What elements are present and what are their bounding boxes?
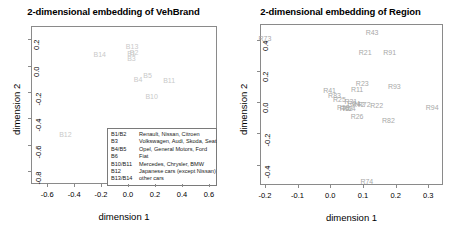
- legend-row: B1/B2Renault, Nissan, Citroen: [111, 131, 213, 138]
- x-tick-mark: [47, 184, 48, 187]
- legend-description: Fiat: [139, 153, 213, 160]
- x-tick-mark: [182, 184, 183, 187]
- legend-key: B13/B14: [111, 175, 139, 182]
- y-tick-label: 0.2: [261, 71, 270, 81]
- y-tick-label: -0.6: [34, 145, 43, 158]
- data-point-label: B14: [94, 51, 106, 58]
- y-tick-label: -0.2: [34, 92, 43, 105]
- data-point-label: B11: [163, 76, 175, 83]
- y-tick-mark: [28, 118, 31, 119]
- data-point-label: R21: [359, 49, 372, 56]
- legend-key: B1/B2: [111, 131, 139, 138]
- legend-row: B10/B11Mercedes, Chrysler, BMW: [111, 161, 213, 168]
- y-tick-mark: [257, 40, 260, 41]
- data-point-label: B5: [143, 71, 152, 78]
- x-tick-label: -0.6: [41, 190, 54, 199]
- y-tick-label: 0.4: [261, 40, 270, 50]
- x-tick-label: -0.2: [258, 191, 271, 200]
- y-tick-mark: [28, 145, 31, 146]
- x-tick-mark: [209, 184, 210, 187]
- x-tick-label: 0.0: [325, 191, 335, 200]
- x-tick-label: -0.1: [291, 191, 304, 200]
- x-tick-mark: [128, 184, 129, 187]
- legend-row: B13/B14other cars: [111, 175, 213, 182]
- legend-description: Opel, General Motors, Ford: [139, 146, 213, 153]
- legend-row: B12Japanese cars (except Nissan): [111, 168, 213, 175]
- data-point-label: B12: [59, 130, 71, 137]
- x-tick-mark: [298, 185, 299, 188]
- x-tick-label: -0.4: [68, 190, 81, 199]
- legend-description: other cars: [139, 175, 213, 182]
- y-tick-mark: [257, 133, 260, 134]
- data-point-label: R22: [370, 101, 383, 108]
- data-point-label: R72: [358, 101, 371, 108]
- data-point-label: R93: [388, 82, 401, 89]
- y-tick-mark: [28, 39, 31, 40]
- x-tick-label: 0.6: [204, 190, 214, 199]
- legend-key: B4/B5: [111, 146, 139, 153]
- x-tick-mark: [101, 184, 102, 187]
- x-tick-label: 0.2: [150, 190, 160, 199]
- y-tick-label: 0.0: [32, 66, 41, 76]
- data-point-label: R74: [360, 177, 373, 184]
- y-tick-mark: [257, 165, 260, 166]
- legend-description: Renault, Nissan, Citroen: [139, 131, 213, 138]
- legend-key: B6: [111, 153, 139, 160]
- x-tick-label: 0.0: [123, 190, 133, 199]
- x-tick-mark: [330, 185, 331, 188]
- data-point-label: R94: [426, 104, 439, 111]
- y-tick-label: -0.8: [34, 171, 43, 184]
- data-point-label: R91: [383, 49, 396, 56]
- legend-row: B4/B5Opel, General Motors, Ford: [111, 146, 213, 153]
- legend-row: B3Volkswagen, Audi, Skoda, Seat: [111, 138, 213, 145]
- legend-description: Japanese cars (except Nissan): [139, 168, 216, 175]
- y-tick-mark: [28, 92, 31, 93]
- x-tick-label: 0.1: [358, 191, 368, 200]
- y-tick-mark: [28, 171, 31, 172]
- data-point-label: B3: [127, 55, 136, 62]
- y-tick-label: -0.2: [263, 134, 272, 147]
- y-tick-label: -0.4: [34, 119, 43, 132]
- x-tick-mark: [265, 185, 266, 188]
- x-tick-mark: [155, 184, 156, 187]
- legend-description: Volkswagen, Audi, Skoda, Seat: [139, 138, 216, 145]
- x-tick-mark: [428, 185, 429, 188]
- y-tick-mark: [28, 66, 31, 67]
- x-axis-title-vehbrand: dimension 1: [31, 211, 217, 222]
- y-tick-label: 0.0: [261, 103, 270, 113]
- x-tick-mark: [396, 185, 397, 188]
- y-tick-mark: [257, 102, 260, 103]
- figure-container: 2-dimensional embedding of VehBrand dime…: [0, 0, 454, 232]
- x-tick-label: 0.3: [423, 191, 433, 200]
- legend-row: B6Fiat: [111, 153, 213, 160]
- y-tick-label: -0.4: [263, 165, 272, 178]
- legend-vehbrand: B1/B2Renault, Nissan, CitroenB3Volkswage…: [107, 128, 217, 186]
- y-tick-label: 0.2: [32, 40, 41, 50]
- panel-vehbrand: 2-dimensional embedding of VehBrand dime…: [0, 0, 227, 232]
- x-tick-label: 0.2: [390, 191, 400, 200]
- x-tick-label: -0.2: [95, 190, 108, 199]
- data-point-label: R82: [382, 117, 395, 124]
- x-tick-label: 0.4: [177, 190, 187, 199]
- data-point-label: R43: [366, 28, 379, 35]
- y-axis-title-region: dimension 2: [238, 83, 249, 134]
- panel-title-region: 2-dimensional embedding of Region: [227, 6, 454, 17]
- data-point-label: B4: [134, 76, 143, 83]
- legend-description: Mercedes, Chrysler, BMW: [139, 161, 213, 168]
- legend-key: B10/B11: [111, 161, 139, 168]
- legend-key: B12: [111, 168, 139, 175]
- data-point-label: B10: [145, 92, 157, 99]
- panel-region: 2-dimensional embedding of Region dimens…: [227, 0, 454, 232]
- y-axis-title-vehbrand: dimension 2: [11, 84, 22, 135]
- panel-title-vehbrand: 2-dimensional embedding of VehBrand: [0, 6, 227, 17]
- data-point-label: R26: [351, 112, 364, 119]
- data-point-label: R54: [343, 104, 356, 111]
- legend-key: B3: [111, 138, 139, 145]
- y-tick-mark: [257, 71, 260, 72]
- data-point-label: R11: [351, 86, 363, 93]
- x-axis-title-region: dimension 1: [260, 212, 443, 223]
- x-tick-mark: [74, 184, 75, 187]
- x-tick-mark: [363, 185, 364, 188]
